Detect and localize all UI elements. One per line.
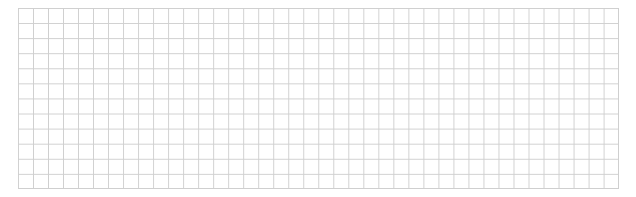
blank-grid [18,8,619,189]
